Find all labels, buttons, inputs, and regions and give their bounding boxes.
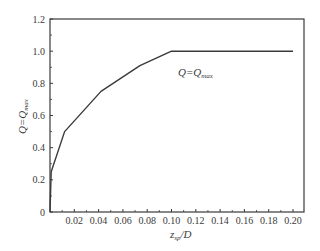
x-axis-label: zsp/D [169, 228, 192, 242]
x-tick-label: 0.16 [236, 215, 254, 226]
plot-frame [50, 19, 304, 212]
chart: 00.20.40.60.81.01.2 0.020.040.060.080.10… [0, 0, 320, 251]
x-tick-label: 0.02 [66, 215, 84, 226]
x-tick-label: 0.04 [90, 215, 108, 226]
y-tick-label: 0.6 [33, 110, 46, 121]
x-tick-label: 0.18 [260, 215, 278, 226]
x-tick-label: 0.10 [163, 215, 181, 226]
x-tick-label: 0.14 [211, 215, 229, 226]
y-tick-label: 0.4 [33, 142, 46, 153]
y-tick-label: 1.0 [33, 46, 46, 57]
plot-border [50, 19, 304, 212]
y-axis-label: Q=Qmax [16, 98, 30, 134]
y-tick-label: 0 [40, 207, 45, 218]
y-tick-label: 0.8 [33, 78, 46, 89]
annotation-q-qmax: Q=Qmax [178, 66, 214, 80]
series-line [50, 51, 293, 212]
data-series [50, 51, 293, 212]
y-tick-label: 1.2 [33, 14, 46, 25]
x-tick-label: 0.06 [114, 215, 132, 226]
y-tick-label: 0.2 [33, 174, 46, 185]
x-tick-label: 0.20 [284, 215, 302, 226]
x-tick-label: 0.12 [187, 215, 205, 226]
x-tick-label: 0.08 [138, 215, 156, 226]
